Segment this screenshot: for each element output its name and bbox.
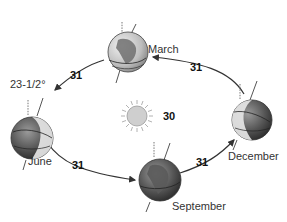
sun-icon <box>121 100 153 132</box>
label-september: September <box>172 201 226 212</box>
label-sun-days: 30 <box>163 111 175 122</box>
orbit-diagram: March 23-1/2° June December September 30… <box>0 0 287 222</box>
label-june: June <box>28 156 52 167</box>
label-arc-september-december: 31 <box>196 157 208 168</box>
globe-march <box>108 22 148 83</box>
label-arc-march-june: 31 <box>70 70 82 81</box>
orbit-diagram-svg <box>0 0 287 222</box>
label-march: March <box>148 44 179 55</box>
globe-december <box>232 81 272 150</box>
label-arc-june-september: 31 <box>72 160 84 171</box>
arc-june-to-september <box>47 142 135 180</box>
label-axial-tilt: 23-1/2° <box>10 79 46 90</box>
label-arc-december-march: 31 <box>190 62 202 73</box>
label-december: December <box>228 151 279 162</box>
